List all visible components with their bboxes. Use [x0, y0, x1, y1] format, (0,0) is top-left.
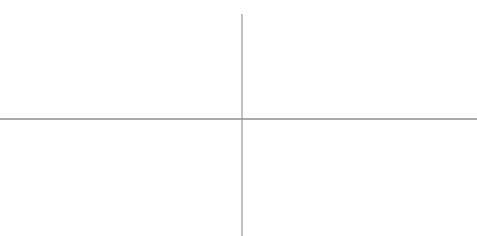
function-plot — [0, 0, 477, 236]
plot-figure — [0, 0, 477, 236]
